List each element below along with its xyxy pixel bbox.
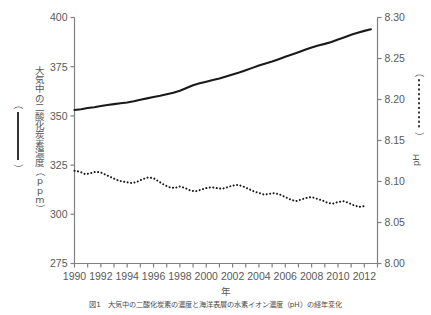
right-axis-tick-label: 8.00: [385, 257, 406, 269]
left-axis-title: 大気中の二酸化炭素濃度（ppm）: [35, 65, 46, 214]
x-axis-tick-label: 2000: [195, 270, 219, 282]
dual-axis-line-chart: 2753003253503754008.008.058.108.158.208.…: [0, 0, 431, 315]
legend-ph-bracket-bottom: ）: [414, 132, 425, 142]
legend-ph: （）: [414, 68, 425, 142]
right-axis-title-text: pH: [410, 154, 421, 166]
x-axis-tick-label: 2008: [300, 270, 324, 282]
right-axis-tick-label: 8.05: [385, 216, 406, 228]
left-axis-tick-label: 350: [50, 110, 68, 122]
left-axis-title-char: ）: [35, 204, 46, 214]
legend-co2-bracket-top: （: [13, 100, 24, 110]
co2-series-line: [75, 29, 371, 110]
left-axis-tick-label: 300: [50, 208, 68, 220]
x-axis-tick-label: 2006: [274, 270, 298, 282]
x-axis-tick-label: 1990: [63, 270, 87, 282]
right-axis-tick-label: 8.20: [385, 93, 406, 105]
right-axis-tick-label: 8.10: [385, 175, 406, 187]
x-axis-tick-label: 1994: [116, 270, 140, 282]
x-axis-tick-label: 1992: [89, 270, 113, 282]
legend-co2: （）: [13, 100, 24, 174]
right-axis-tick-label: 8.25: [385, 52, 406, 64]
ph-series-line: [75, 171, 365, 207]
x-axis-title: 年: [221, 286, 231, 297]
right-axis-title: pH: [410, 154, 421, 166]
legend-ph-bracket-top: （: [414, 68, 425, 78]
figure-container: 2753003253503754008.008.058.108.158.208.…: [0, 0, 431, 315]
legend-co2-bracket-bottom: ）: [13, 164, 24, 174]
x-axis-tick-label: 2012: [353, 270, 377, 282]
left-axis-tick-label: 275: [50, 257, 68, 269]
x-axis-tick-label: 1996: [142, 270, 166, 282]
right-axis-tick-label: 8.15: [385, 134, 406, 146]
x-axis-tick-label: 1998: [168, 270, 192, 282]
figure-caption: 図1 大気中の二酸化炭素の濃度と海洋表層の水素イオン濃度（pH）の経年変化: [0, 300, 431, 309]
right-axis-tick-label: 8.30: [385, 11, 406, 23]
left-axis-tick-label: 400: [50, 11, 68, 23]
x-axis-tick-label: 2002: [221, 270, 245, 282]
x-axis-tick-label: 2010: [326, 270, 350, 282]
left-axis-tick-label: 325: [50, 159, 68, 171]
left-axis-tick-label: 375: [50, 61, 68, 73]
x-axis-tick-label: 2004: [247, 270, 271, 282]
